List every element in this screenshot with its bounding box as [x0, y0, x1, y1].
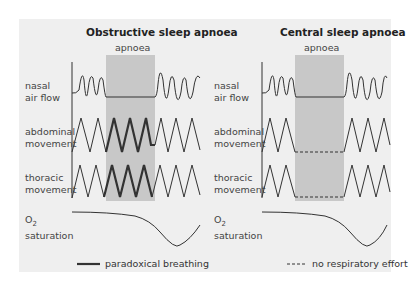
right-legend: no respiratory effort: [312, 258, 408, 269]
left-label-thoracic: thoracic movement: [25, 172, 76, 196]
left-label-o2: O2 saturation: [25, 214, 73, 242]
left-apnoea-label: apnoea: [115, 42, 150, 53]
right-apnoea-label: apnoea: [304, 42, 339, 53]
apnoea-shade-left: [106, 55, 155, 101]
right-title: Central sleep apnoea: [280, 26, 406, 38]
left-label-abdominal: abdominal movement: [25, 126, 76, 150]
right-label-abdominal: abdominal movement: [214, 126, 265, 150]
apnoea-shade-right: [295, 55, 344, 201]
right-label-nasal: nasal air flow: [214, 80, 249, 104]
left-legend: paradoxical breathing: [105, 258, 209, 269]
left-label-nasal: nasal air flow: [25, 80, 60, 104]
left-title: Obstructive sleep apnoea: [86, 26, 238, 38]
right-label-o2: O2 saturation: [214, 214, 262, 242]
right-label-thoracic: thoracic movement: [214, 172, 265, 196]
